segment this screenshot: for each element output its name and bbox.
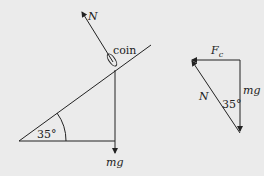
weight-label-triangle: mg bbox=[243, 84, 260, 97]
force-triangle: Fc mg N 35° bbox=[192, 44, 260, 133]
angle-label-triangle: 35° bbox=[222, 98, 242, 111]
normal-label: N bbox=[87, 10, 98, 23]
angle-label: 35° bbox=[37, 128, 57, 141]
weight-label: mg bbox=[106, 156, 123, 169]
angle-arc bbox=[57, 113, 66, 141]
normal-label-triangle: N bbox=[198, 90, 209, 103]
coin-label: coin bbox=[113, 44, 136, 57]
incline-diagram: 35° N coin mg bbox=[19, 10, 151, 169]
incline-line bbox=[19, 45, 151, 141]
friction-label: Fc bbox=[210, 44, 224, 59]
force-diagram: 35° N coin mg Fc mg N 35° bbox=[0, 0, 274, 176]
